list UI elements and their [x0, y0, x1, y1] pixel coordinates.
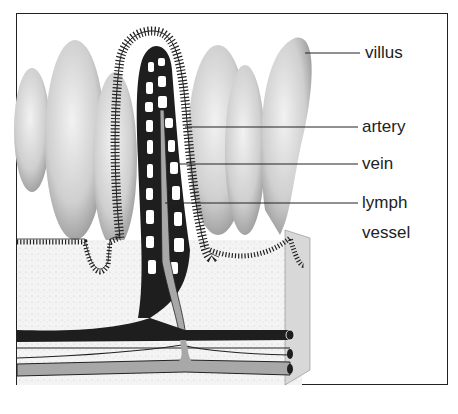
label-vein: vein [362, 155, 393, 173]
label-lymph: lymph [362, 194, 407, 212]
label-artery: artery [362, 118, 405, 136]
label-vessel: vessel [362, 224, 410, 242]
label-villus: villus [365, 44, 403, 62]
